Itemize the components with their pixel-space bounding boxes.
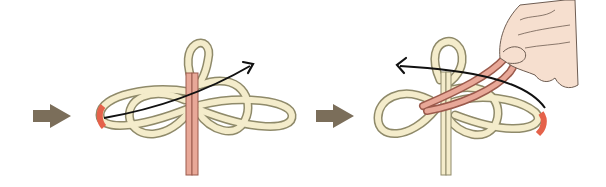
step-arrow-icon bbox=[33, 104, 71, 128]
step-2 bbox=[316, 0, 578, 175]
center-cords bbox=[441, 72, 451, 175]
step-arrow-icon bbox=[316, 104, 354, 128]
knot-diagram: Knot tying steps bbox=[0, 0, 606, 187]
step-1 bbox=[33, 43, 292, 175]
center-cords bbox=[186, 73, 198, 175]
